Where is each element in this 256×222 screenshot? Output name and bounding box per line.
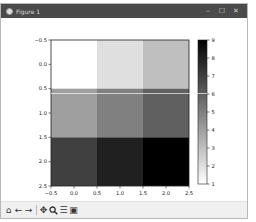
y-tick-label: 1.0: [39, 110, 47, 116]
x-tick-label: 2.5: [185, 190, 193, 196]
y-tick-label: 0.5: [39, 85, 47, 91]
colorbar-tick-label: 2: [212, 163, 215, 169]
x-tick-label: 1.5: [139, 190, 147, 196]
heatmap-cell-r0-c2: [143, 40, 189, 89]
colorbar-tick-label: 5: [212, 109, 215, 115]
colorbar: [198, 40, 207, 184]
heatmap-cell-r1-c2: [143, 89, 189, 138]
toolbar-separator: [36, 205, 37, 215]
figure-icon: [6, 8, 13, 15]
heatmap-cell-r2-c2: [143, 137, 189, 186]
heatmap-cell-r2-c1: [97, 137, 143, 186]
home-icon[interactable]: ⌂: [4, 204, 13, 216]
title-bar[interactable]: Figure 1 – ☐ ✕: [1, 4, 247, 18]
pan-move-icon[interactable]: ✥: [39, 204, 48, 216]
heatmap-cell-r0-c0: [51, 40, 97, 89]
colorbar-tick-label: 1: [212, 181, 215, 187]
heatmap-chart[interactable]: −0.50.00.51.01.52.02.5−0.50.00.51.01.52.…: [1, 18, 247, 203]
heatmap-cell-r2-c0: [51, 137, 97, 186]
colorbar-tick-label: 9: [212, 37, 215, 43]
colorbar-tick-label: 7: [212, 73, 215, 79]
window-controls: – ☐ ✕: [201, 4, 243, 18]
heatmap-cell-r1-c1: [97, 89, 143, 138]
x-tick-label: 0.5: [93, 190, 101, 196]
x-tick-label: 1.0: [116, 190, 124, 196]
save-floppy-icon[interactable]: ▣: [69, 204, 78, 216]
x-tick-label: 0.0: [70, 190, 78, 196]
magnifier-glyph: [49, 206, 58, 215]
y-tick-label: 1.5: [39, 134, 47, 140]
arrow-right-icon[interactable]: →: [24, 204, 33, 216]
y-tick-label: 2.0: [39, 158, 47, 164]
figure-window: Figure 1 – ☐ ✕ −0.50.00.51.01.52.02.5−0.…: [0, 3, 248, 219]
colorbar-tick-label: 4: [212, 127, 216, 133]
y-tick-label: −0.5: [34, 37, 47, 43]
colorbar-tick-label: 8: [212, 55, 215, 61]
x-tick-label: 2.0: [162, 190, 170, 196]
colorbar-tick-label: 3: [212, 145, 215, 151]
close-button[interactable]: ✕: [229, 4, 243, 18]
navigation-toolbar: ⌂ ← → ✥ ☰ ▣: [1, 201, 247, 218]
heatmap-cell-r1-c0: [51, 89, 97, 138]
colorbar-tick-label: 6: [212, 91, 215, 97]
zoom-magnifier-icon[interactable]: [49, 204, 58, 216]
heatmap-cell-r0-c1: [97, 40, 143, 89]
y-tick-label: 2.5: [39, 183, 47, 189]
arrow-left-icon[interactable]: ←: [14, 204, 23, 216]
x-tick-label: −0.5: [45, 190, 58, 196]
configure-subplots-icon[interactable]: ☰: [59, 204, 68, 216]
window-title: Figure 1: [16, 8, 40, 15]
y-tick-label: 0.0: [39, 61, 47, 67]
minimize-button[interactable]: –: [201, 4, 215, 18]
maximize-button[interactable]: ☐: [215, 4, 229, 18]
